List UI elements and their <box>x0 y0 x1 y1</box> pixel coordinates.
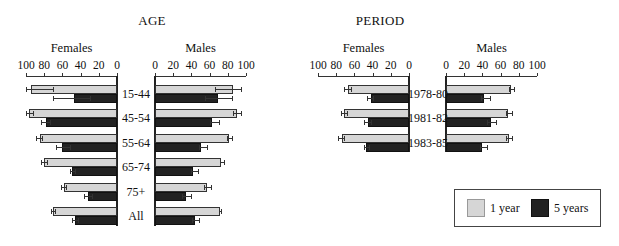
tick-label: 0 <box>406 59 412 71</box>
tick-label: 100 <box>17 59 34 71</box>
error-bar <box>26 89 53 90</box>
female-bar-1-year <box>29 109 117 118</box>
error-bar-cap <box>347 111 348 116</box>
tick-label: 0 <box>443 59 449 71</box>
female-bar-1-year <box>44 158 117 167</box>
panel-title-period: PERIOD <box>356 13 405 29</box>
legend-swatch-1-year <box>467 199 485 217</box>
error-bar-cap <box>232 96 233 101</box>
error-bar-cap <box>512 136 513 141</box>
tick-label: 20 <box>458 59 470 71</box>
error-bar-cap <box>90 96 91 101</box>
males-x-axis <box>446 76 537 77</box>
error-bar-cap <box>191 169 192 174</box>
error-bar-cap <box>53 87 54 92</box>
error-bar-cap <box>512 111 513 116</box>
male-bar-1-year <box>155 207 220 216</box>
category-label: 65-74 <box>122 160 150 175</box>
error-bar <box>41 122 49 123</box>
error-bar-cap <box>53 96 54 101</box>
error-bar <box>84 196 91 197</box>
error-bar <box>53 98 89 99</box>
error-bar-cap <box>78 218 79 223</box>
legend-label-1-year: 1 year <box>490 201 520 216</box>
category-label: 55-64 <box>122 135 150 150</box>
category-label: 1981-82 <box>408 111 448 126</box>
tick-label: 100 <box>309 59 326 71</box>
male-bar-1-year <box>446 85 511 94</box>
error-bar-cap <box>55 209 56 214</box>
error-bar-cap <box>241 87 242 92</box>
error-bar-cap <box>341 111 342 116</box>
error-bar-cap <box>480 145 481 150</box>
error-bar-cap <box>26 111 27 116</box>
male-bar-5-years <box>446 94 484 103</box>
error-bar-cap <box>220 160 221 165</box>
error-bar <box>481 98 489 99</box>
male-bar-5-years <box>446 143 482 152</box>
error-bar-cap <box>506 136 507 141</box>
females-x-axis <box>318 76 409 77</box>
error-bar-cap <box>41 160 42 165</box>
males-subtitle-period: Males <box>476 41 507 56</box>
error-bar-cap <box>72 218 73 223</box>
error-bar-cap <box>224 160 225 165</box>
tick-label: 80 <box>38 59 50 71</box>
female-bar-1-year <box>64 183 117 192</box>
panel-title-age: AGE <box>138 13 166 29</box>
males-x-axis <box>155 76 246 77</box>
male-bar-1-year <box>446 109 508 118</box>
axis-tick <box>537 73 538 76</box>
error-bar-cap <box>351 87 352 92</box>
error-bar-cap <box>221 209 222 214</box>
male-bar-5-years <box>155 118 212 127</box>
error-bar-cap <box>338 136 339 141</box>
tick-label: 100 <box>237 59 254 71</box>
error-bar-cap <box>490 96 491 101</box>
category-label: All <box>128 209 143 224</box>
female-bar-5-years <box>72 167 117 176</box>
tick-label: 40 <box>75 59 87 71</box>
error-bar-cap <box>198 169 199 174</box>
error-bar <box>215 89 240 90</box>
error-bar-cap <box>219 209 220 214</box>
male-bar-5-years <box>155 192 186 201</box>
tick-label: 0 <box>114 59 120 71</box>
error-bar-cap <box>26 87 27 92</box>
male-bar-1-year <box>155 109 237 118</box>
error-bar-cap <box>369 145 370 150</box>
error-bar-cap <box>210 120 211 125</box>
error-bar-cap <box>92 194 93 199</box>
female-bar-5-years <box>366 143 409 152</box>
error-bar <box>205 98 232 99</box>
category-label: 1983-85 <box>408 135 448 150</box>
error-bar-cap <box>70 145 71 150</box>
error-bar-cap <box>364 145 365 150</box>
female-bar-5-years <box>46 118 117 127</box>
error-bar <box>210 122 219 123</box>
female-bar-5-years <box>368 118 409 127</box>
male-bar-1-year <box>155 134 229 143</box>
error-bar-cap <box>211 185 212 190</box>
error-bar-cap <box>506 111 507 116</box>
error-bar-cap <box>514 87 515 92</box>
error-bar <box>233 113 240 114</box>
error-bar-cap <box>50 120 51 125</box>
tick-label: 40 <box>186 59 198 71</box>
male-bar-5-years <box>446 118 491 127</box>
category-label: 1978-80 <box>408 87 448 102</box>
error-bar-cap <box>75 169 76 174</box>
error-bar <box>56 147 70 148</box>
tick-label: 80 <box>222 59 234 71</box>
error-bar-cap <box>219 120 220 125</box>
error-bar-cap <box>199 218 200 223</box>
error-bar-cap <box>51 209 52 214</box>
tick-label: 20 <box>93 59 105 71</box>
error-bar-cap <box>509 87 510 92</box>
tick-label: 80 <box>330 59 342 71</box>
error-bar-cap <box>205 96 206 101</box>
tick-label: 60 <box>57 59 69 71</box>
error-bar <box>182 196 191 197</box>
error-bar-cap <box>66 185 67 190</box>
error-bar-cap <box>364 120 365 125</box>
